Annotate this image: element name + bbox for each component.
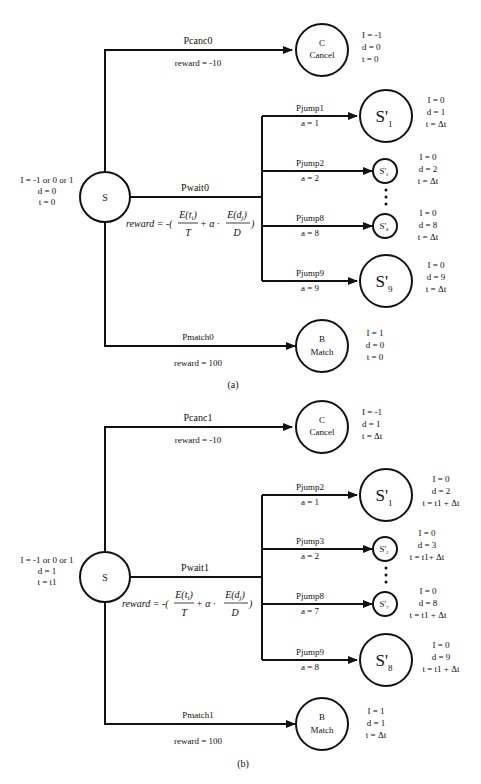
match-prob: Pmatch1 [182, 710, 214, 720]
match-reward: reward = 100 [174, 358, 223, 368]
jump-2-var-i: I = 0 [418, 528, 436, 538]
source-var-i: I = -1 or 0 or 1 [20, 175, 73, 185]
jump-8-var-d: d = 9 [432, 652, 451, 662]
jump-9-var-d: d = 9 [427, 272, 446, 282]
cancel-var-i: I = -1 [362, 30, 382, 40]
formula-num1: E(ti) [178, 209, 197, 222]
jump-1-var-t: t = t1 + Δt [423, 498, 460, 508]
match-var-i: I = 1 [366, 328, 383, 338]
cancel-reward: reward = -10 [175, 435, 222, 445]
cancel-var-d: d = 0 [362, 42, 381, 52]
match-node-label: Match [311, 347, 334, 357]
formula-suffix: ) [248, 598, 253, 610]
match-node-letter: B [319, 334, 325, 344]
jump-2-var-d: d = 3 [418, 540, 437, 550]
formula-den2: D [230, 607, 239, 618]
jump-2-var-t: t = t1+ Δt [410, 552, 445, 562]
cancel-var-t: t = 0 [362, 54, 379, 64]
jump-1-action: a = 1 [301, 497, 319, 507]
jump-8-var-d: d = 8 [419, 220, 438, 230]
jump-2-var-t: t = Δt [418, 176, 439, 186]
jump-1-var-d: d = 1 [427, 107, 446, 117]
jump-2-action: a = 2 [301, 551, 319, 561]
jump-1-prob: Pjump2 [296, 482, 324, 492]
match-node [296, 320, 348, 372]
source-var-t: t = 0 [39, 197, 56, 207]
jump-2-prob: Pjump2 [296, 158, 324, 168]
formula-prefix: reward = -( [122, 598, 169, 610]
jump-7-var-d: d = 8 [419, 598, 438, 608]
jump-9-var-t: t = Δt [426, 284, 447, 294]
formula-suffix: ) [250, 218, 255, 230]
jump-1-var-t: t = Δt [426, 119, 447, 129]
jump-1-action: a = 1 [301, 118, 319, 128]
jump-1-var-d: d = 2 [432, 486, 451, 496]
jump-8-prob: Pjump8 [296, 213, 325, 223]
cancel-reward: reward = -10 [175, 58, 222, 68]
jump-8-action: a = 8 [301, 228, 320, 238]
match-node [296, 698, 348, 750]
formula-num1: E(ti) [174, 589, 193, 602]
source-var-t: t = t1 [37, 577, 56, 587]
match-node-letter: B [319, 712, 325, 722]
formula-prefix: reward = -( [126, 218, 173, 230]
source-label: S [102, 192, 108, 203]
diagram-b: S I = -1 or 0 or 1 d = 1 t = t1 Pcanc1 r… [20, 401, 460, 770]
jump-2-var-d: d = 2 [419, 164, 438, 174]
jump-7-prob: Pjump8 [296, 591, 325, 601]
ellipsis-dots [385, 189, 388, 206]
match-reward: reward = 100 [174, 736, 223, 746]
formula-mid: + α · [200, 218, 220, 229]
wait-reward-formula: reward = -( E(ti) T + α · E(dj) D ) [122, 589, 253, 618]
cancel-node-label: Cancel [310, 50, 335, 60]
jump-9-var-i: I = 0 [427, 260, 445, 270]
cancel-node-label: Cancel [310, 427, 335, 437]
source-var-d: d = 0 [38, 186, 57, 196]
formula-den2: D [232, 227, 241, 238]
jump-7-var-t: t = t1 + Δt [410, 610, 447, 620]
formula-den1: T [181, 607, 188, 618]
match-prob: Pmatch0 [182, 332, 214, 342]
formula-num2: E(dj) [224, 589, 245, 602]
formula-num2: E(dj) [226, 209, 247, 222]
match-var-t: t = 0 [367, 352, 384, 362]
wait-prob: Pwait1 [181, 562, 209, 573]
jump-2-var-i: I = 0 [419, 152, 437, 162]
edge-match [105, 222, 295, 346]
source-var-i: I = -1 or 0 or 1 [20, 555, 73, 565]
match-node-label: Match [311, 725, 334, 735]
jump-8-var-i: I = 0 [419, 208, 437, 218]
caption-a: (a) [227, 379, 238, 391]
edge-cancel [105, 427, 292, 553]
jump-7-action: a = 7 [301, 606, 320, 616]
mdp-diagram-canvas: S I = -1 or 0 or 1 d = 0 t = 0 Pcanc0 re… [0, 0, 481, 784]
edge-match [105, 602, 295, 724]
match-var-t: t = Δt [366, 730, 387, 740]
jump-9-prob: Pjump9 [296, 268, 325, 278]
jump-1-var-i: I = 0 [427, 95, 445, 105]
edge-cancel [105, 50, 292, 172]
jump-1-prob: Pjump1 [296, 103, 324, 113]
jump-8-var-i: I = 0 [432, 640, 450, 650]
match-var-i: I = 1 [367, 706, 384, 716]
source-var-d: d = 1 [38, 566, 57, 576]
cancel-var-i: I = -1 [362, 407, 382, 417]
formula-den1: T [185, 227, 192, 238]
source-label: S [102, 572, 108, 583]
jump-2-prob: Pjump3 [296, 536, 325, 546]
cancel-var-d: d = 1 [362, 419, 381, 429]
wait-prob: Pwait0 [181, 182, 209, 193]
jump-1-var-i: I = 0 [432, 474, 450, 484]
ellipsis-dots [385, 567, 388, 584]
cancel-prob: Pcanc1 [184, 412, 213, 423]
match-var-d: d = 0 [366, 340, 385, 350]
jump-7-var-i: I = 0 [419, 586, 437, 596]
jump-2-action: a = 2 [301, 173, 319, 183]
wait-reward-formula: reward = -( E(ti) T + α · E(dj) D ) [126, 209, 255, 238]
cancel-node-letter: C [319, 38, 325, 48]
caption-b: (b) [237, 758, 249, 770]
jump-9-action: a = 9 [301, 283, 320, 293]
cancel-prob: Pcanc0 [184, 35, 213, 46]
cancel-var-t: t = Δt [362, 431, 383, 441]
match-var-d: d = 1 [367, 718, 386, 728]
